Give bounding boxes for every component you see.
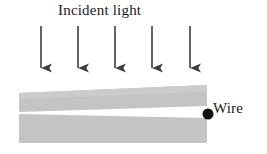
- wire-dot: [203, 109, 214, 120]
- incident-light-label: Incident light: [58, 3, 141, 18]
- optics-figure: Incident light Wire: [0, 0, 267, 154]
- incident-light-arrows: [41, 26, 190, 68]
- wire-label: Wire: [213, 101, 243, 116]
- figure-canvas: [0, 0, 267, 154]
